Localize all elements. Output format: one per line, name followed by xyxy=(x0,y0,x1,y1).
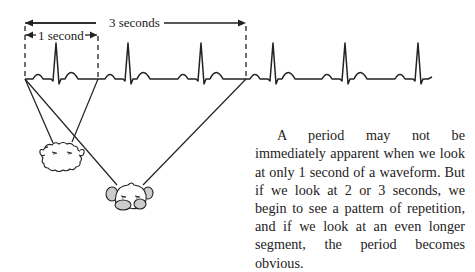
one-second-label: 1 second xyxy=(38,28,84,43)
ecg-waveform xyxy=(25,43,432,84)
observer-creature-icon xyxy=(40,143,84,172)
one-second-span-arrow: 1 second xyxy=(25,28,97,43)
observer-creature-icon xyxy=(106,183,153,210)
three-seconds-label: 3 seconds xyxy=(109,15,160,30)
caption-paragraph: A period may not be immediately apparent… xyxy=(255,126,465,272)
